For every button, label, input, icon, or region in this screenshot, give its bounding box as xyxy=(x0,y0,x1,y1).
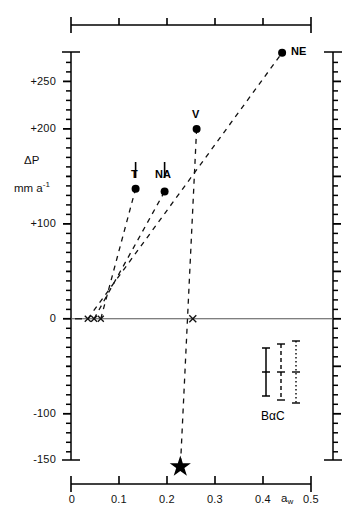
data-point-NE xyxy=(278,49,286,57)
x-ticklabel-01: 0.1 xyxy=(107,493,131,505)
legend-bar-B xyxy=(262,348,270,396)
data-label-T: T xyxy=(131,168,138,180)
x-axis-label-subscript: w xyxy=(287,497,293,506)
trend-lines xyxy=(88,53,282,469)
legend-bar-alpha xyxy=(277,344,285,400)
y-ticklabel-0: 0 xyxy=(8,312,56,324)
y-ticklabel-250: +250 xyxy=(8,75,56,87)
y-axis-label-symbol: ΔP xyxy=(24,154,39,166)
data-label-NA: NA xyxy=(155,168,171,180)
data-point-V xyxy=(193,125,201,133)
data-point-star xyxy=(170,456,191,476)
y-ticklabel-neg150: -150 xyxy=(8,453,56,465)
x-ticklabel-03: 0.3 xyxy=(203,493,227,505)
x-ticklabel-02: 0.2 xyxy=(155,493,179,505)
x-ticklabel-04: 0.4 xyxy=(251,493,275,505)
line-V-to-star xyxy=(180,129,196,469)
x-axis-label: aw xyxy=(281,492,293,506)
x-ticklabel-0: 0 xyxy=(66,493,78,505)
legend-caption: BαC xyxy=(261,409,285,423)
y-ticklabel-100: +100 xyxy=(8,217,56,229)
y-ticklabel-200: +200 xyxy=(8,122,56,134)
data-point-T xyxy=(132,185,140,193)
data-point-NA xyxy=(161,188,169,196)
x-ticklabel-05: 0.5 xyxy=(299,493,323,505)
y-axis-units-text: mm a xyxy=(14,182,43,194)
bottom-axis xyxy=(71,476,311,492)
line-to-NE xyxy=(88,53,282,319)
y-axis-units-exponent: -1 xyxy=(43,180,50,189)
data-label-V: V xyxy=(192,108,199,120)
legend-error-bars xyxy=(262,341,300,403)
right-y-axis xyxy=(324,52,342,460)
figure-canvas: +250 +200 +100 0 -100 -150 ΔP mm a-1 0 0… xyxy=(0,0,361,529)
y-ticklabel-neg100: -100 xyxy=(8,407,56,419)
left-y-axis xyxy=(62,52,80,460)
y-axis-label-units: mm a-1 xyxy=(14,180,50,194)
legend-bar-C xyxy=(292,341,300,403)
top-axis xyxy=(71,17,311,33)
data-label-NE: NE xyxy=(291,45,306,57)
